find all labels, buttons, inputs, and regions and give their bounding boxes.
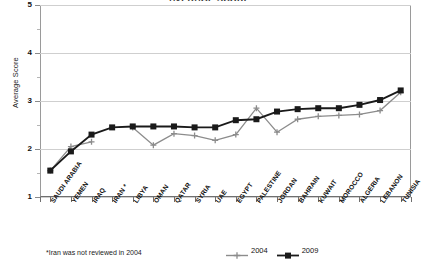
legend-item-2009[interactable]: 2009	[277, 246, 319, 255]
data-point-2004-6	[171, 131, 177, 137]
data-point-2009-5	[150, 123, 156, 129]
series-line-2009	[50, 90, 400, 170]
data-point-2009-2	[89, 132, 95, 138]
data-point-2009-7	[192, 124, 198, 130]
data-point-2004-12	[295, 116, 301, 122]
data-point-2004-13	[315, 113, 321, 119]
data-point-2009-16	[377, 97, 383, 103]
data-point-2004-8	[212, 137, 218, 143]
data-point-2009-0	[47, 168, 53, 174]
data-point-2009-10	[253, 116, 259, 122]
data-point-2004-2	[89, 139, 95, 145]
data-point-2009-15	[356, 102, 362, 108]
footnote: *Iran was not reviewed in 2004	[46, 249, 142, 256]
data-point-2009-12	[295, 106, 301, 112]
legend-label-2004: 2004	[251, 246, 268, 255]
legend-item-2004[interactable]: 2004	[226, 246, 268, 255]
data-point-2009-11	[274, 109, 280, 115]
data-point-2009-6	[171, 123, 177, 129]
data-point-2009-14	[336, 105, 342, 111]
legend-swatch-2009	[277, 246, 299, 255]
series-line-2004	[133, 92, 401, 145]
legend-label-2009: 2009	[302, 246, 319, 255]
data-point-2009-4	[130, 123, 136, 129]
data-point-2004-15	[356, 111, 362, 117]
data-point-2004-14	[336, 112, 342, 118]
data-point-2009-13	[315, 105, 321, 111]
data-point-2009-3	[109, 124, 115, 130]
legend-swatch-2004	[226, 246, 248, 255]
legend: 2004 2009	[226, 246, 318, 255]
data-point-2009-1	[68, 148, 74, 154]
series-2009	[47, 87, 403, 173]
data-point-2009-8	[212, 124, 218, 130]
data-point-2009-17	[398, 87, 404, 93]
data-point-2004-7	[192, 133, 198, 139]
data-point-2009-9	[233, 117, 239, 123]
